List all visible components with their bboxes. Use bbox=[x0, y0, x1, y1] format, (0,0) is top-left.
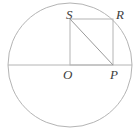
diagonal-line-SP bbox=[70, 19, 113, 65]
vertex-label-p: P bbox=[110, 68, 118, 81]
vertex-label-s: S bbox=[66, 8, 73, 21]
geometry-figure: S R O P bbox=[0, 0, 138, 133]
vertex-label-r: R bbox=[116, 8, 124, 21]
vertex-label-o: O bbox=[63, 68, 72, 81]
